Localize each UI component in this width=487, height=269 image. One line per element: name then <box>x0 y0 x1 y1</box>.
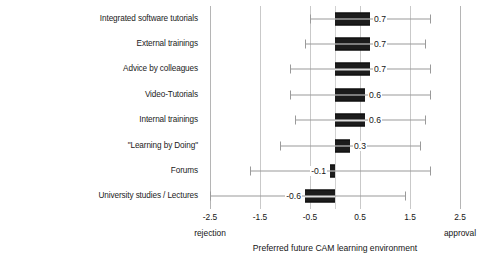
bar-value-label: 0.6 <box>368 90 382 100</box>
error-bar-cap-high <box>430 90 431 99</box>
bar-value-label: -0.1 <box>310 166 327 176</box>
chart-row: 0.7 <box>210 31 460 56</box>
error-bar-cap-low <box>310 14 311 23</box>
bar <box>335 38 370 51</box>
chart-row: 0.6 <box>210 82 460 107</box>
chart-row: -0.6 <box>210 184 460 209</box>
error-bar-cap-high <box>425 40 426 49</box>
x-tick-label: -1.5 <box>253 212 267 222</box>
bar <box>335 114 365 127</box>
bar <box>335 12 370 25</box>
category-label: Internal trainings <box>139 115 198 125</box>
error-bar-cap-low <box>290 65 291 74</box>
category-label: Advice by colleagues <box>123 64 198 74</box>
category-label: Forums <box>171 166 198 176</box>
error-bar-cap-high <box>420 141 421 150</box>
bar-chart: Integrated software tutorialsExternal tr… <box>0 0 487 269</box>
error-bar-cap-low <box>210 192 211 201</box>
error-bar <box>250 170 430 171</box>
category-axis: Integrated software tutorialsExternal tr… <box>0 6 204 209</box>
chart-row: -0.1 <box>210 158 460 183</box>
x-tick-label: 2.5 <box>454 212 466 222</box>
plot-area: 0.70.70.70.60.60.3-0.1-0.6 <box>210 6 460 209</box>
bar-value-label: 0.7 <box>373 64 387 74</box>
error-bar-cap-low <box>295 116 296 125</box>
scale-anchor-high: approval <box>444 228 476 238</box>
error-bar-cap-low <box>305 40 306 49</box>
error-bar-cap-high <box>430 14 431 23</box>
scale-anchor-low: rejection <box>194 228 226 238</box>
error-bar-cap-high <box>430 166 431 175</box>
error-bar-cap-high <box>430 65 431 74</box>
error-bar-cap-low <box>290 90 291 99</box>
chart-row: 0.3 <box>210 133 460 158</box>
bar-value-label: 0.7 <box>373 39 387 49</box>
category-label: Integrated software tutorials <box>100 14 198 24</box>
x-tick-label: 1.5 <box>404 212 416 222</box>
category-label: External trainings <box>137 39 198 49</box>
chart-row: 0.7 <box>210 6 460 31</box>
bar <box>335 88 365 101</box>
category-label: University studies / Lectures <box>99 191 198 201</box>
x-tick-label: 0.5 <box>354 212 366 222</box>
category-label: "Learning by Doing" <box>128 141 198 151</box>
gridline <box>460 6 461 209</box>
bar <box>305 190 335 203</box>
bar-value-label: 0.6 <box>368 115 382 125</box>
error-bar <box>280 145 420 146</box>
error-bar <box>310 18 430 19</box>
bar <box>335 63 370 76</box>
bar-value-label: -0.6 <box>285 191 302 201</box>
bar <box>330 164 335 177</box>
chart-row: 0.6 <box>210 108 460 133</box>
chart-row: 0.7 <box>210 57 460 82</box>
error-bar-cap-low <box>280 141 281 150</box>
x-tick-label: -0.5 <box>303 212 317 222</box>
x-axis-title: Preferred future CAM learning environmen… <box>210 243 460 254</box>
bar-value-label: 0.3 <box>353 141 367 151</box>
error-bar-cap-high <box>425 116 426 125</box>
error-bar-cap-high <box>405 192 406 201</box>
category-label: Video-Tutorials <box>145 90 198 100</box>
error-bar-cap-low <box>250 166 251 175</box>
bar-value-label: 0.7 <box>373 14 387 24</box>
bar <box>335 139 350 152</box>
x-tick-label: -2.5 <box>203 212 217 222</box>
